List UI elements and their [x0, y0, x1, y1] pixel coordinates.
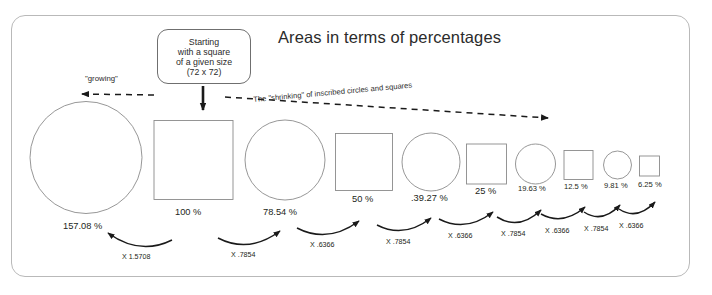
shape-square-2: [154, 121, 233, 200]
shape-circle-3: [245, 120, 325, 200]
percent-label-1: 157.08 %: [63, 221, 102, 231]
multiplier-label-1: X 1.5708: [122, 253, 150, 261]
percent-label-4: 50 %: [352, 194, 373, 204]
multiplier-arrow-4: [377, 218, 431, 231]
multiplier-label-8: X .7854: [584, 225, 608, 233]
multiplier-label-4: X .7854: [386, 238, 410, 246]
shape-square-8: [564, 151, 593, 180]
growing-label: "growing": [85, 74, 118, 83]
multiplier-label-6: X .7854: [501, 230, 525, 238]
page-title: Areas in terms of percentages: [278, 28, 501, 47]
multiplier-label-9: X .6366: [619, 222, 643, 230]
percent-label-3: 78.54 %: [263, 207, 297, 217]
shape-row: [30, 102, 660, 214]
multiplier-arrow-6: [497, 210, 541, 223]
multiplier-label-7: X .6366: [545, 227, 569, 235]
percent-label-5: .39.27 %: [411, 193, 448, 203]
callout-box: Starting with a square of a given size (…: [157, 29, 251, 84]
multiplier-arrow-3: [297, 221, 359, 235]
shape-circle-7: [516, 144, 556, 184]
shape-square-6: [467, 144, 507, 184]
percent-label-7: 19.63 %: [518, 184, 546, 193]
callout-line-1: Starting: [189, 37, 219, 47]
diagram-canvas: Areas in terms of percentages Starting w…: [0, 0, 712, 295]
percent-label-8: 12.5 %: [564, 182, 588, 191]
shape-square-4: [336, 134, 393, 191]
percent-label-9: 9.81 %: [604, 181, 628, 190]
callout-line-4: (72 x 72): [187, 67, 222, 77]
shape-circle-5: [402, 133, 460, 191]
multiplier-arrow-8: [584, 205, 620, 217]
percent-label-10: 6.25 %: [638, 180, 662, 189]
shape-circle-9: [604, 151, 632, 179]
multiplier-arrow-5: [439, 212, 493, 225]
shape-square-10: [640, 156, 660, 176]
percent-label-6: 25 %: [475, 186, 496, 196]
multiplier-label-5: X .6366: [448, 232, 472, 240]
multiplier-label-3: X .6366: [310, 241, 334, 249]
multiplier-arrow-1: [108, 233, 172, 247]
multiplier-arrow-7: [541, 207, 585, 219]
growing-dashed-arrow: [82, 94, 154, 95]
shape-circle-1: [30, 102, 142, 214]
multiplier-arrow-9: [619, 202, 655, 214]
callout-line-3: of a given size: [176, 57, 232, 67]
multiplier-arrow-2: [218, 231, 280, 245]
percent-label-2: 100 %: [175, 207, 201, 217]
callout-line-2: with a square: [178, 47, 230, 57]
multiplier-label-2: X .7854: [231, 251, 255, 259]
